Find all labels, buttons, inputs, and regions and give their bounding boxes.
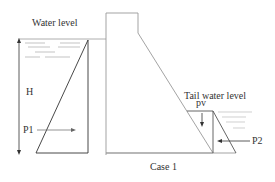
p2-label: P2 [252, 135, 263, 146]
height-dimension-arrow [17, 38, 21, 155]
case-caption: Case 1 [150, 161, 177, 172]
tail-water-level-label: Tail water level [184, 90, 246, 101]
upstream-water-hatch [25, 43, 80, 57]
dam-outline [106, 13, 213, 155]
p1-label: P1 [23, 124, 34, 135]
dam-pressure-diagram: Water level H P1 Tail water level pv P2 … [0, 0, 275, 182]
p2-arrow [217, 139, 250, 143]
p1-arrow [37, 128, 76, 132]
height-label: H [26, 86, 33, 97]
pv-arrow [200, 113, 204, 127]
pv-label: pv [196, 97, 206, 108]
water-level-label: Water level [32, 17, 78, 28]
tailwater-hatch [218, 112, 252, 128]
